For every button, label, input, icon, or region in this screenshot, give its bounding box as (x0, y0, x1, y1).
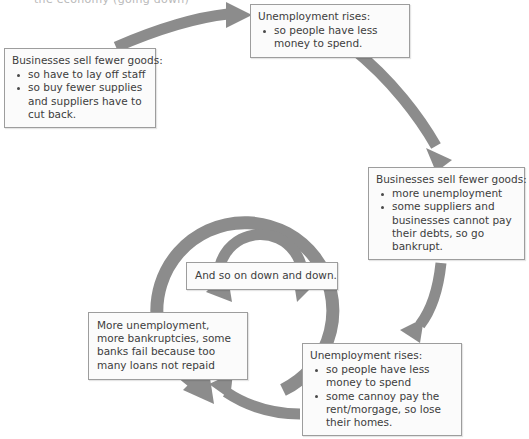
box-bottom-right-bullets: so people have less money to spend some … (310, 363, 454, 429)
connector-left-to-top-arrow (116, 2, 252, 47)
box-right-bullet-2: some suppliers and businesses cannot pay… (379, 200, 517, 253)
box-businesses-sell-fewer-goods-right: Businesses sell fewer goods: more unempl… (368, 167, 525, 260)
box-more-unemployment-banks-fail: More unemployment, more bankruptcies, so… (88, 312, 248, 380)
box-bottom-right-bullet-1: so people have less money to spend (313, 363, 454, 389)
box-left-bullet-1: so have to lay off staff (15, 68, 148, 81)
box-right-heading: Businesses sell fewer goods: (376, 173, 517, 186)
diagram-canvas: the economy (going down) (0, 0, 529, 439)
box-and-so-on-down-and-down: And so on down and down. (186, 262, 338, 290)
box-top-heading: Unemployment rises: (258, 10, 402, 23)
box-unemployment-rises-bottom-right: Unemployment rises: so people have less … (302, 343, 462, 436)
box-left-heading: Businesses sell fewer goods: (12, 54, 148, 67)
box-right-bullet-1: more unemployment (379, 187, 517, 200)
box-center-text: And so on down and down. (195, 269, 329, 282)
connector-right-to-bottom-right-arrow (400, 263, 441, 343)
box-businesses-sell-fewer-goods-left: Businesses sell fewer goods: so have to … (4, 48, 156, 128)
box-unemployment-rises-top: Unemployment rises: so people have less … (250, 4, 410, 58)
box-left-bullets: so have to lay off staff so buy fewer su… (12, 68, 148, 121)
box-top-bullet-1: so people have less money to spend. (261, 24, 402, 50)
box-bottom-right-heading: Unemployment rises: (310, 349, 454, 362)
box-left-bullet-2: so buy fewer supplies and suppliers have… (15, 81, 148, 121)
connector-top-to-right-arrow (352, 48, 452, 172)
box-right-bullets: more unemployment some suppliers and bus… (376, 187, 517, 253)
box-bottom-right-bullet-2: some cannoy pay the rent/morgage, so los… (313, 390, 454, 430)
box-top-bullets: so people have less money to spend. (258, 24, 402, 50)
box-bottom-left-text: More unemployment, more bankruptcies, so… (97, 319, 239, 372)
